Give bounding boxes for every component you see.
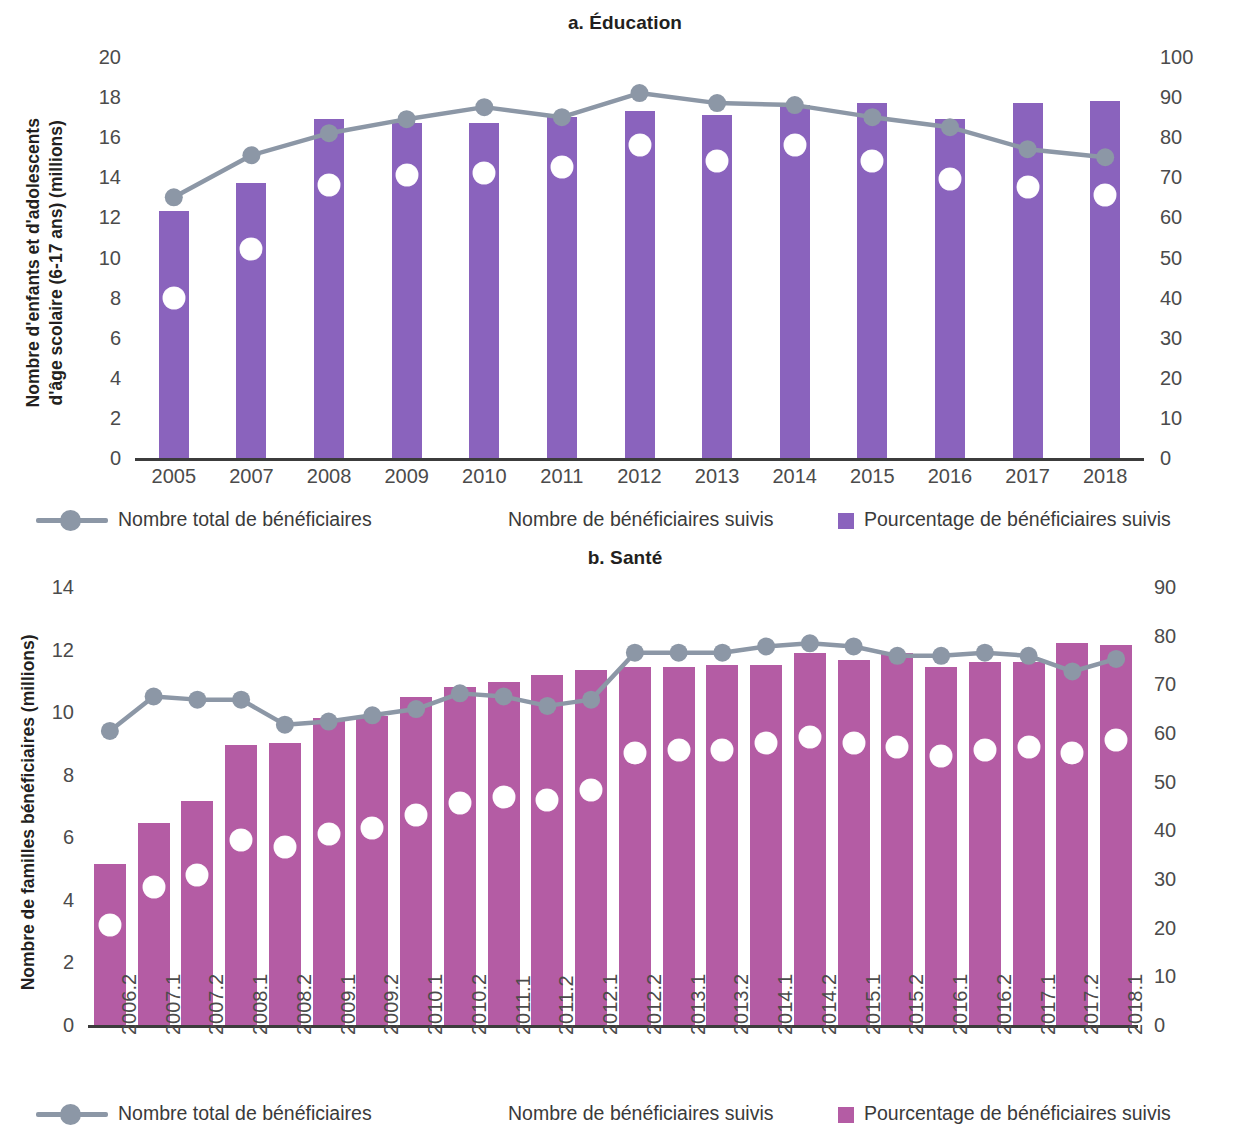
panel-sante: b. Santé Nombre de familles bénéficiaire… [0, 545, 1250, 1136]
y-tick-right-20: 20 [1160, 368, 1220, 388]
panel-a-title: a. Éducation [0, 12, 1250, 34]
y-tick-right-70: 70 [1160, 167, 1220, 187]
dot-followed-2011.1 [493, 786, 515, 808]
line-marker [451, 684, 469, 702]
y-tick-right-10: 10 [1160, 408, 1220, 428]
line-marker [320, 124, 338, 142]
y-tick-left-14: 14 [14, 577, 74, 597]
line-marker [713, 644, 731, 662]
x-tick-2011.1: 2011.1 [513, 975, 533, 1035]
panel-a-y-axis-label-line1: Nombre d'enfants et d'adolescents [22, 63, 45, 463]
line-marker [801, 634, 819, 652]
y-tick-right-60: 60 [1160, 207, 1220, 227]
dot-followed-2015.2 [886, 736, 908, 758]
x-tick-2014.1: 2014.1 [775, 974, 795, 1035]
x-tick-2018.1: 2018.1 [1125, 974, 1145, 1035]
x-tick-2014.2: 2014.2 [819, 974, 839, 1035]
legend-line-marker-icon [60, 510, 81, 531]
y-tick-right-60: 60 [1154, 723, 1214, 743]
y-tick-right-50: 50 [1154, 772, 1214, 792]
dot-followed-2017 [1017, 176, 1039, 198]
dot-followed-2013.2 [711, 739, 733, 761]
dot-followed-2012.2 [624, 742, 646, 764]
line-marker [538, 697, 556, 715]
y-tick-right-30: 30 [1160, 328, 1220, 348]
line-marker [1063, 662, 1081, 680]
x-tick-2011.2: 2011.2 [556, 975, 576, 1035]
legend-line-marker-icon [60, 1104, 81, 1125]
x-tick-2007.1: 2007.1 [163, 974, 183, 1035]
line-marker [786, 96, 804, 114]
line-series-total [88, 587, 1138, 1025]
line-marker [495, 688, 513, 706]
panel-a-legend: Nombre total de bénéficiaires Nombre de … [0, 503, 1250, 537]
x-tick-2016.1: 2016.1 [950, 974, 970, 1035]
line-marker [1019, 140, 1037, 158]
y-tick-left-0: 0 [14, 1015, 74, 1035]
line-marker [1096, 148, 1114, 166]
dot-followed-2015.1 [843, 732, 865, 754]
dot-followed-2008.2 [274, 836, 296, 858]
y-tick-left-12: 12 [61, 207, 121, 227]
legend-bar-swatch [838, 1107, 854, 1123]
dot-followed-2009 [396, 164, 418, 186]
x-tick-2008.1: 2008.1 [250, 974, 270, 1035]
y-tick-left-6: 6 [14, 827, 74, 847]
x-tick-2016.2: 2016.2 [994, 974, 1014, 1035]
dot-followed-2011 [551, 156, 573, 178]
dot-followed-2013.1 [668, 739, 690, 761]
y-tick-right-0: 0 [1154, 1015, 1214, 1035]
y-tick-left-4: 4 [14, 890, 74, 910]
line-marker [941, 118, 959, 136]
dot-followed-2012 [629, 134, 651, 156]
y-tick-right-40: 40 [1160, 288, 1220, 308]
y-tick-left-8: 8 [61, 288, 121, 308]
x-tick-2010.2: 2010.2 [469, 974, 489, 1035]
line-marker [188, 691, 206, 709]
x-tick-2015.2: 2015.2 [906, 974, 926, 1035]
dot-followed-2014 [784, 134, 806, 156]
y-tick-left-6: 6 [61, 328, 121, 348]
x-tick-2013.1: 2013.1 [688, 974, 708, 1035]
line-marker [242, 146, 260, 164]
dot-followed-2016.1 [930, 745, 952, 767]
line-marker [363, 706, 381, 724]
y-tick-left-2: 2 [61, 408, 121, 428]
line-marker [320, 713, 338, 731]
line-marker [932, 647, 950, 665]
line-marker [145, 688, 163, 706]
line-marker [708, 94, 726, 112]
y-tick-right-90: 90 [1160, 87, 1220, 107]
legend-label-total: Nombre total de bénéficiaires [118, 1102, 372, 1125]
line-marker [976, 644, 994, 662]
panel-b-legend: Nombre total de bénéficiaires Nombre de … [0, 1097, 1250, 1131]
x-tick-2012.2: 2012.2 [644, 974, 664, 1035]
line-marker [1107, 650, 1125, 668]
panel-a-plot-area: 0246810121416182001020304050607080901002… [135, 57, 1144, 458]
x-tick-2012.1: 2012.1 [600, 974, 620, 1035]
legend-label-followed: Nombre de bénéficiaires suivis [508, 1102, 774, 1125]
line-marker [475, 98, 493, 116]
panel-b-title: b. Santé [0, 547, 1250, 569]
dot-followed-2007.1 [143, 876, 165, 898]
dot-followed-2017.1 [1018, 736, 1040, 758]
line-marker [888, 647, 906, 665]
x-tick-2013.2: 2013.2 [731, 974, 751, 1035]
line-marker [553, 108, 571, 126]
y-tick-left-2: 2 [14, 952, 74, 972]
legend-label-percentage: Pourcentage de bénéficiaires suivis [864, 508, 1171, 531]
x-tick-2006.2: 2006.2 [119, 974, 139, 1035]
x-axis-line [135, 458, 1144, 461]
y-tick-right-10: 10 [1154, 966, 1214, 986]
line-marker [407, 700, 425, 718]
y-tick-left-14: 14 [61, 167, 121, 187]
y-tick-right-70: 70 [1154, 674, 1214, 694]
y-tick-left-20: 20 [61, 47, 121, 67]
y-tick-left-12: 12 [14, 640, 74, 660]
y-tick-left-18: 18 [61, 87, 121, 107]
legend-label-percentage: Pourcentage de bénéficiaires suivis [864, 1102, 1171, 1125]
y-tick-right-40: 40 [1154, 820, 1214, 840]
line-marker [398, 110, 416, 128]
line-series-total [135, 57, 1144, 458]
x-tick-2015.1: 2015.1 [863, 974, 883, 1035]
